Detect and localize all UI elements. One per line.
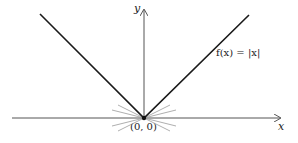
origin-point: [142, 116, 146, 120]
origin-label: (0, 0): [130, 121, 157, 132]
y-axis-label: y: [134, 2, 140, 15]
abs-value-diagram: y x f(x) = |x| (0, 0): [0, 0, 298, 143]
x-axis-label: x: [278, 120, 284, 133]
function-label: f(x) = |x|: [216, 47, 260, 58]
